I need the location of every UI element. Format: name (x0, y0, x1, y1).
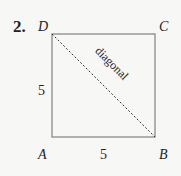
vertex-c: C (159, 19, 169, 34)
square-diagram: 2. diagonal D C A B 5 5 (0, 0, 181, 176)
side-length-bottom: 5 (100, 147, 107, 162)
vertex-d: D (37, 19, 48, 34)
vertex-a: A (37, 147, 47, 162)
side-length-left: 5 (38, 83, 45, 98)
vertex-b: B (159, 147, 168, 162)
diagonal-label: diagonal (92, 44, 132, 84)
problem-number: 2. (13, 17, 26, 36)
